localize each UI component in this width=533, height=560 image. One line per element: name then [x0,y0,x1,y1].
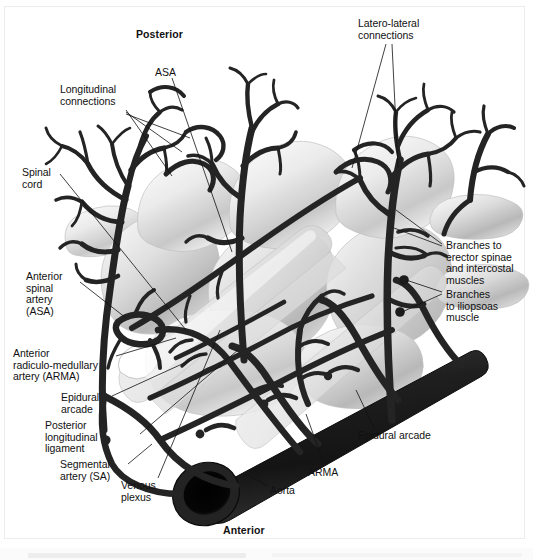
iliopsoas-branch-node-2 [395,307,405,317]
figure-root: .vsl { fill:none; stroke:#242424; stroke… [0,0,533,560]
label-branches-erector-spinae: Branches to erector spinae and intercost… [446,240,514,286]
venous-stub-2 [260,400,269,409]
label-asa-top: ASA [155,67,176,79]
caption-sliver [0,548,533,560]
label-venous-plexus: Venous plexus [121,480,156,503]
label-posterior-longitudinal-ligament: Posterior longitudinal ligament [45,420,98,455]
label-arma-left: Anterior radiculo-medullary artery (ARMA… [13,348,98,383]
label-aorta: Aorta [270,485,295,497]
label-epidural-arcade-right: Epidural arcade [358,430,431,442]
label-anterior-spinal-artery: Anterior spinal artery (ASA) [26,271,62,317]
label-epidural-arcade-left: Epidural arcade [61,392,99,415]
left-trunk-node [101,435,110,444]
leader-segmental-artery [128,444,152,464]
caption-bar-left [28,553,246,558]
venous-stub-1 [196,430,205,439]
label-spinal-cord: Spinal cord [22,167,51,190]
caption-bar-right [272,553,522,557]
label-latero-lateral-connections: Latero-lateral connections [358,18,419,41]
label-posterior: Posterior [136,29,183,41]
label-branches-iliopsoas: Branches to iliopsoas muscle [446,289,498,324]
iliopsoas-branch-node-1 [399,275,409,285]
label-longitudinal-connections: Longitudinal connections [60,84,116,107]
label-arma-bottom: ARMA [308,467,338,479]
label-segmental-artery: Segmental artery (SA) [60,459,110,482]
label-anterior: Anterior [223,525,265,537]
